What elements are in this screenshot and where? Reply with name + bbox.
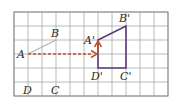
- point-label: B: [50, 27, 59, 40]
- point-label: B': [118, 12, 130, 25]
- point-label: A: [16, 48, 25, 61]
- point-label: A': [83, 34, 95, 47]
- translation-diagram: ABDCA'B'D'C': [0, 0, 177, 100]
- point-label: D': [90, 70, 103, 83]
- point-label: D: [22, 84, 32, 97]
- point-label: C: [51, 84, 60, 97]
- point-label: C': [120, 70, 131, 83]
